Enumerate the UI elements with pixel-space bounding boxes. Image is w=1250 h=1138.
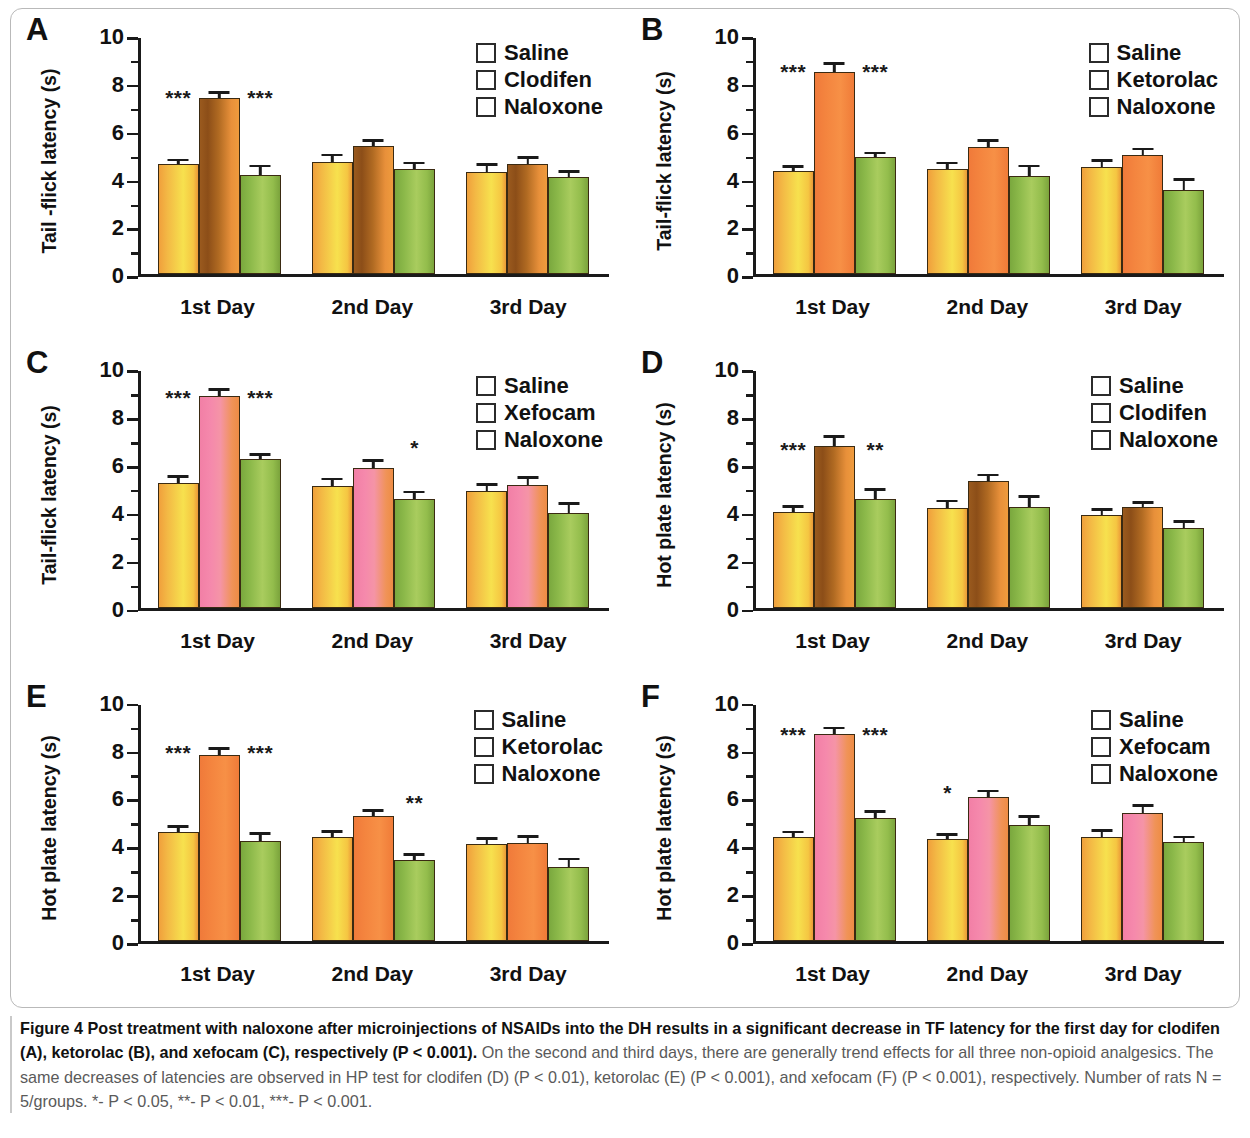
- y-axis-title: Tail-flick latency (s): [653, 36, 676, 286]
- legend-label: Naloxone: [504, 96, 603, 118]
- y-tick-label: 10: [100, 358, 124, 384]
- error-bar-cap: [783, 831, 804, 834]
- y-tick-minor: [746, 823, 753, 826]
- y-tick-minor: [746, 61, 753, 64]
- y-tick-minor: [746, 394, 753, 397]
- y-tick-label: 0: [112, 597, 124, 623]
- plot-area: 0246810*******1st Day2nd Day3rd DaySalin…: [753, 705, 1224, 944]
- bar-xefocam: [814, 734, 855, 942]
- bar-slot: [199, 371, 240, 607]
- significance-marker: *: [943, 782, 952, 803]
- y-tick-major: [127, 85, 138, 88]
- y-tick-label: 0: [112, 264, 124, 290]
- y-tick-label: 10: [715, 24, 739, 50]
- y-tick-major: [742, 895, 753, 898]
- bar-naloxone: [394, 169, 435, 274]
- legend: SalineKetorolacNaloxone: [1089, 42, 1218, 118]
- bar-slot: [814, 371, 855, 607]
- y-tick-minor: [131, 775, 138, 778]
- error-bar-cap: [978, 474, 999, 477]
- x-axis-label: 3rd Day: [490, 277, 567, 319]
- bar-slot: ***: [240, 38, 281, 274]
- bar-xefocam: [968, 797, 1009, 941]
- error-bar: [946, 501, 948, 508]
- legend-item: Clodifen: [1091, 402, 1207, 424]
- y-tick-major: [742, 85, 753, 88]
- plot-area: 0246810******1st Day2nd Day3rd DaySaline…: [138, 38, 609, 277]
- plot-inner: 0246810*****1st Day2nd Day3rd DaySalineC…: [753, 371, 1224, 610]
- legend-item: Naloxone: [474, 763, 601, 785]
- y-tick-major: [127, 37, 138, 40]
- x-axis-label: 3rd Day: [490, 611, 567, 653]
- bar-slot: [814, 38, 855, 274]
- bar-saline: [927, 169, 968, 274]
- error-bar-cap: [937, 500, 958, 503]
- bar-clodifen: [353, 146, 394, 274]
- y-tick-major: [127, 799, 138, 802]
- y-tick-label: 6: [727, 787, 739, 813]
- error-bar: [218, 390, 220, 397]
- error-bar-cap: [978, 790, 999, 793]
- significance-marker: ***: [165, 742, 191, 763]
- bar-slot: *: [394, 371, 435, 607]
- bar-saline: [466, 491, 507, 607]
- significance-marker: **: [866, 439, 883, 460]
- figure-panel-grid: ATail -flick latency (s)0246810******1st…: [10, 8, 1240, 1008]
- bar-saline: [927, 839, 968, 941]
- legend-label: Saline: [504, 42, 569, 64]
- plot-inner: 0246810*******1st Day2nd Day3rd DaySalin…: [138, 371, 609, 610]
- y-tick-minor: [131, 586, 138, 589]
- y-tick-minor: [746, 586, 753, 589]
- error-bar-cap: [1173, 178, 1194, 181]
- y-tick-major: [127, 276, 138, 279]
- y-tick-label: 2: [727, 883, 739, 909]
- bar-slot: [312, 371, 353, 607]
- significance-marker: ***: [247, 387, 273, 408]
- legend-item: Naloxone: [1091, 763, 1218, 785]
- y-tick-major: [742, 610, 753, 613]
- bar-slot: [1009, 371, 1050, 607]
- bar-naloxone: [548, 867, 589, 941]
- bar-naloxone: [394, 860, 435, 941]
- significance-marker: ***: [780, 724, 806, 745]
- bar-slot: [199, 705, 240, 941]
- plot-inner: 0246810********1st Day2nd Day3rd DaySali…: [138, 705, 609, 944]
- bar-group: ******: [773, 38, 896, 274]
- bar-group: *****: [773, 371, 896, 607]
- bar-saline: [1081, 837, 1122, 941]
- error-bar: [833, 437, 835, 447]
- bar-xefocam: [199, 396, 240, 608]
- error-bar-cap: [558, 502, 579, 505]
- significance-marker: ***: [780, 61, 806, 82]
- legend-item: Saline: [1091, 709, 1184, 731]
- legend-label: Naloxone: [502, 763, 601, 785]
- y-tick-label: 6: [727, 120, 739, 146]
- bar-slot: [312, 705, 353, 941]
- legend-label: Xefocam: [1119, 736, 1211, 758]
- y-tick-major: [127, 466, 138, 469]
- error-bar-cap: [404, 162, 425, 165]
- bar-saline: [312, 837, 353, 941]
- y-tick-label: 8: [727, 406, 739, 432]
- x-axis-label: 2nd Day: [331, 277, 413, 319]
- bar-saline: [312, 486, 353, 607]
- error-bar-cap: [1132, 804, 1153, 807]
- legend-swatch-saline: [476, 376, 496, 396]
- error-bar-cap: [1091, 829, 1112, 832]
- error-bar-cap: [783, 165, 804, 168]
- bar-clodifen: [968, 481, 1009, 607]
- error-bar: [259, 834, 261, 841]
- bar-group: ******: [773, 705, 896, 941]
- bar-slot: [1009, 38, 1050, 274]
- significance-marker: ***: [780, 439, 806, 460]
- error-bar-cap: [937, 833, 958, 836]
- y-tick-minor: [131, 871, 138, 874]
- y-axis-title: Tail -flick latency (s): [38, 36, 61, 286]
- legend-swatch-saline: [1091, 710, 1111, 730]
- bar-slot: ***: [773, 371, 814, 607]
- x-axis-label: 3rd Day: [1105, 277, 1182, 319]
- error-bar: [568, 504, 570, 513]
- bar-saline: [927, 508, 968, 608]
- legend-item: Saline: [476, 375, 569, 397]
- y-tick-major: [742, 704, 753, 707]
